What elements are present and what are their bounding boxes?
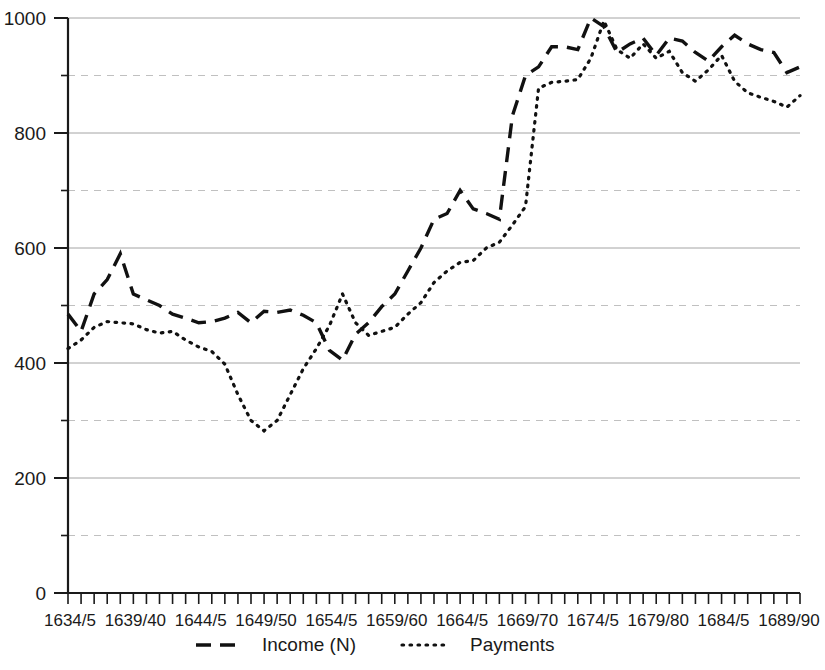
x-tick-label-1644/5: 1644/5 [175, 611, 227, 630]
x-tick-label-1634/5: 1634/5 [44, 611, 96, 630]
x-tick-label-1689/90: 1689/90 [758, 611, 819, 630]
y-axis: 02004006008001000 [4, 8, 68, 604]
y-tick-label-1000: 1000 [4, 8, 46, 29]
x-tick-label-1679/80: 1679/80 [627, 611, 688, 630]
major-gridlines [68, 18, 800, 478]
x-tick-label-1639/40: 1639/40 [105, 611, 166, 630]
y-tick-label-400: 400 [14, 353, 46, 374]
x-tick-label-1654/5: 1654/5 [305, 611, 357, 630]
series-line-income-n [68, 18, 800, 360]
chart-figure: 02004006008001000 1634/51639/401644/5164… [0, 0, 825, 670]
x-tick-label-1664/5: 1664/5 [436, 611, 488, 630]
x-axis: 1634/51639/401644/51649/501654/51659/601… [44, 593, 820, 630]
x-tick-label-1674/5: 1674/5 [567, 611, 619, 630]
series-line-payments [68, 21, 800, 431]
y-tick-label-600: 600 [14, 238, 46, 259]
x-tick-label-1659/60: 1659/60 [366, 611, 427, 630]
y-tick-label-200: 200 [14, 468, 46, 489]
x-tick-label-1649/50: 1649/50 [235, 611, 296, 630]
line-chart-svg: 02004006008001000 1634/51639/401644/5164… [0, 0, 825, 670]
y-tick-label-0: 0 [35, 583, 46, 604]
chart-legend: Income (N)Payments [196, 634, 554, 655]
data-series-group [68, 18, 800, 431]
legend-label-payments: Payments [470, 634, 554, 655]
minor-gridlines [61, 76, 800, 536]
legend-label-income-n: Income (N) [262, 634, 356, 655]
plot-area: 02004006008001000 1634/51639/401644/5164… [0, 0, 825, 670]
y-tick-label-800: 800 [14, 123, 46, 144]
x-tick-label-1684/5: 1684/5 [698, 611, 750, 630]
x-tick-label-1669/70: 1669/70 [497, 611, 558, 630]
